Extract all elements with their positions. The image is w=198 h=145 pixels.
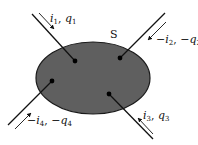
terminal-2-node — [118, 56, 123, 61]
region-label: S — [110, 28, 118, 41]
surface-diagram: S i1, q1 −i2, −q2 i3, q3 −i4, −q4 — [0, 0, 198, 145]
terminal-4-node — [50, 79, 55, 84]
terminal-2-label: −i2, −q2 — [156, 33, 198, 47]
terminal-3-node — [107, 92, 112, 97]
terminal-3-label: i3, q3 — [143, 109, 170, 123]
region-s-ellipse — [36, 42, 150, 114]
terminal-4-label: −i4, −q4 — [27, 114, 72, 128]
terminal-1-node — [73, 59, 78, 64]
terminal-1-label: i1, q1 — [50, 12, 77, 26]
